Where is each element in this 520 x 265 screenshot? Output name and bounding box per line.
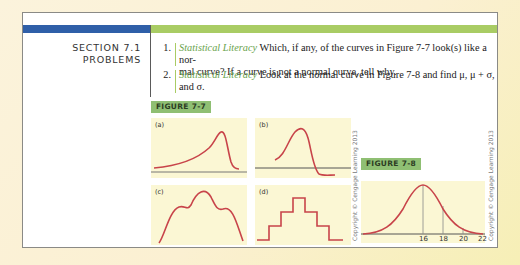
problem-number: 1. <box>157 42 171 54</box>
problem-2: 2. Statistical Literacy Look at the norm… <box>157 69 497 93</box>
figure-7-7-panel-c: (c) <box>151 185 247 245</box>
problem-rule <box>175 70 176 93</box>
figure-7-7-label: FIGURE 7-7 <box>151 101 211 113</box>
panel-tag: (d) <box>259 188 268 196</box>
panel-tag: (a) <box>155 121 164 129</box>
panel-tag: (b) <box>259 121 268 129</box>
curve-d-graphic <box>255 185 351 245</box>
normal-curve-graphic <box>361 181 485 243</box>
problem-topic: Statistical Literacy <box>179 42 257 53</box>
curve-b-graphic <box>255 118 351 178</box>
problem-topic: Statistical Literacy <box>179 69 257 80</box>
copyright-notice-7-7: Copyright © Cengage Learning 2013 <box>351 130 358 241</box>
section-number: SECTION 7.1 <box>23 42 141 54</box>
figure-7-7-panel-a: (a) <box>151 118 247 178</box>
section-header-bar-green <box>150 25 497 33</box>
curve-a-graphic <box>151 118 247 178</box>
figure-7-8-chart <box>361 181 485 243</box>
curve-c-graphic <box>151 185 247 245</box>
section-divider <box>150 25 151 97</box>
panel-tag: (c) <box>155 188 164 196</box>
section-header-bar-blue <box>23 25 150 33</box>
copyright-notice-7-8: Copyright © Cengage Learning 2013 <box>487 130 494 241</box>
section-heading: SECTION 7.1 PROBLEMS <box>23 42 141 66</box>
tick-label-20: 20 <box>459 235 468 243</box>
problem-text-cont: and σ. <box>179 81 497 93</box>
figure-7-8-label: FIGURE 7-8 <box>361 158 421 170</box>
figure-7-7-panel-d: (d) <box>255 185 351 245</box>
textbook-page: SECTION 7.1 PROBLEMS 1. Statistical Lite… <box>22 12 498 248</box>
figure-7-7-panel-b: (b) <box>255 118 351 178</box>
problem-text: Look at the normal curve in Figure 7-8 a… <box>257 69 494 80</box>
section-subtitle: PROBLEMS <box>23 54 141 66</box>
tick-label-18: 18 <box>439 235 448 243</box>
tick-label-22: 22 <box>478 235 487 243</box>
problem-number: 2. <box>157 69 171 81</box>
tick-label-16: 16 <box>419 235 428 243</box>
problem-rule <box>175 43 176 66</box>
